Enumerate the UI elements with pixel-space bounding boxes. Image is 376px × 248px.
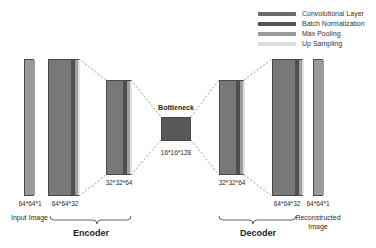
legend-label-bn: Batch Normalization	[302, 20, 365, 28]
legend-swatch-conv	[258, 12, 296, 16]
caption-input-image: Input Image	[11, 213, 48, 222]
legend-swatch-upsample	[258, 42, 296, 46]
bottleneck-title: Bottleneck	[150, 103, 202, 112]
stripe-conv	[49, 60, 71, 195]
stripe-conv	[25, 60, 35, 195]
block-decoder-2	[272, 59, 303, 196]
decoder-bracket	[219, 216, 296, 224]
dim-label-bottleneck: 16*16*128	[150, 149, 202, 157]
stripe-up-sampling	[302, 60, 304, 195]
dim-label-decoder-1: 32*32*64	[209, 179, 255, 187]
stripe-conv	[314, 60, 324, 195]
block-input-image	[24, 59, 34, 196]
section-label-encoder: Encoder	[66, 228, 116, 239]
block-bottleneck	[161, 117, 191, 141]
block-decoder-1	[219, 80, 244, 175]
legend-swatch-bn	[258, 22, 296, 26]
legend-label-conv: Convolutional Layer	[302, 10, 364, 18]
legend-label-pool: Max Pooling	[302, 30, 341, 38]
stripe-up-sampling	[243, 81, 245, 174]
stripe-conv	[107, 81, 123, 174]
legend-item-upsample: Up Sampling	[258, 39, 376, 48]
stripe-up-sampling	[78, 60, 80, 195]
section-label-decoder: Decoder	[233, 228, 283, 239]
legend-item-pool: Max Pooling	[258, 29, 376, 38]
block-reconstructed-image	[313, 59, 323, 196]
legend-label-upsample: Up Sampling	[302, 40, 342, 48]
legend-item-bn: Batch Normalization	[258, 19, 376, 28]
stripe-conv	[273, 60, 295, 195]
legend: Convolutional Layer Batch Normalization …	[258, 9, 376, 49]
dim-label-encoder-2: 32*32*64	[96, 179, 142, 187]
legend-swatch-pool	[258, 32, 296, 36]
encoder-bracket	[50, 216, 131, 224]
caption-reconstructed-image-line1: Reconstructed	[293, 213, 343, 222]
dim-label-reconstructed: 64*64*1	[297, 200, 339, 208]
block-encoder-1	[48, 59, 79, 196]
stripe-up-sampling	[130, 81, 132, 174]
caption-reconstructed-image-line2: Image	[293, 222, 343, 231]
stripe-conv	[220, 81, 236, 174]
legend-item-conv: Convolutional Layer	[258, 9, 376, 18]
architecture-diagram: Convolutional Layer Batch Normalization …	[0, 0, 376, 248]
dim-label-encoder-1: 64*64*32	[42, 200, 88, 208]
block-encoder-2	[106, 80, 131, 175]
